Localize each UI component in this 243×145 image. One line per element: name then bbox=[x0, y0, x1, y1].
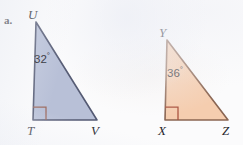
angle-label-36: 36° bbox=[167, 66, 183, 79]
triangle-utv bbox=[33, 22, 97, 120]
geometry-figure: a. U T V 32° Y X Z 36° bbox=[0, 0, 243, 145]
degree-symbol-32: ° bbox=[47, 51, 50, 60]
vertex-label-z: Z bbox=[222, 124, 229, 137]
triangle-utv-shape bbox=[33, 22, 97, 120]
angle-label-32: 32° bbox=[34, 52, 50, 65]
angle-value-36: 36 bbox=[167, 67, 180, 79]
triangle-yxz-shape bbox=[165, 40, 228, 120]
vertex-label-u: U bbox=[28, 8, 37, 21]
vertex-label-x: X bbox=[158, 124, 166, 137]
degree-symbol-36: ° bbox=[180, 65, 183, 74]
part-label-a: a. bbox=[4, 14, 12, 26]
triangle-yxz bbox=[165, 40, 228, 120]
vertex-label-t: T bbox=[27, 124, 34, 137]
vertex-label-v: V bbox=[91, 124, 99, 137]
angle-value-32: 32 bbox=[34, 53, 47, 65]
vertex-label-y: Y bbox=[159, 26, 166, 39]
